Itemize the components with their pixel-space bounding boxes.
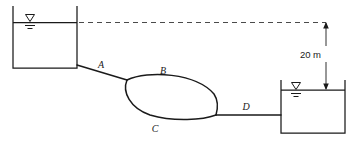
pipe-label-c: C [152,123,159,134]
pipe-segment-b [127,74,217,115]
pipe-system [77,65,281,120]
upper-reservoir [13,6,77,68]
hydraulics-figure: A B C D 20 m [0,0,350,145]
lower-reservoir-walls [281,80,345,133]
pipe-segment-c [126,80,216,120]
upper-reservoir-walls [13,6,77,68]
pipe-label-d: D [241,101,250,112]
dimension-label: 20 m [300,49,321,60]
arrow-down-icon [323,84,329,91]
pipe-label-b: B [160,65,166,76]
water-level-icon [25,15,35,29]
pipe-label-a: A [97,59,105,70]
elevation-dimension: 20 m [300,22,329,90]
figure-canvas: A B C D 20 m [0,0,350,145]
lower-reservoir [281,80,345,133]
